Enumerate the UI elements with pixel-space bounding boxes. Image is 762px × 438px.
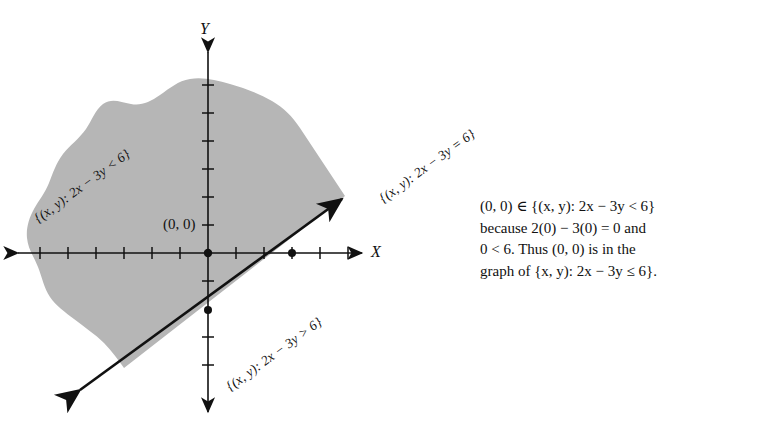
origin-point <box>204 249 212 257</box>
explanation-line-2: because 2(0) − 3(0) = 0 and <box>480 218 750 240</box>
explanation-line-3: 0 < 6. Thus (0, 0) is in the <box>480 239 750 261</box>
y-intercept-point <box>204 306 212 314</box>
x-intercept-point <box>288 249 296 257</box>
axis-label-x: X <box>371 243 381 261</box>
explanation-text: (0, 0) ∈ {(x, y): 2x − 3y < 6} because 2… <box>480 196 750 282</box>
explanation-line-1: (0, 0) ∈ {(x, y): 2x − 3y < 6} <box>480 196 750 218</box>
origin-label: (0, 0) <box>163 216 196 233</box>
axis-label-y: Y <box>200 20 209 38</box>
explanation-line-4: graph of {x, y): 2x − 3y ≤ 6}. <box>480 261 750 283</box>
inequality-graph-figure: X Y (0, 0) {(x, y): 2x − 3y < 6} {(x, y)… <box>0 0 762 438</box>
